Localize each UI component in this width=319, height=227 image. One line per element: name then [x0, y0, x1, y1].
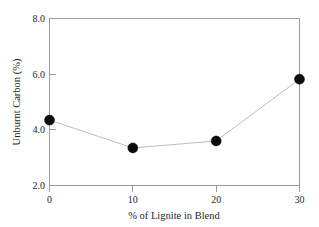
data-point	[211, 136, 221, 146]
x-tick-label-0: 0	[47, 194, 52, 205]
data-point	[295, 74, 305, 84]
y-axis-title: Unburnt Carbon (%)	[11, 58, 23, 145]
y-tick-label-6: 6.0	[33, 69, 46, 80]
y-tick-label-8: 8.0	[33, 13, 46, 24]
chart-figure: 8.0 6.0 4.0 2.0 0 10 20 30 % of Lignite …	[0, 0, 319, 227]
y-tick-labels: 8.0 6.0 4.0 2.0	[33, 13, 46, 191]
x-tick-label-10: 10	[128, 194, 138, 205]
x-tick-label-30: 30	[295, 194, 305, 205]
data-point	[128, 143, 138, 153]
x-axis-ticks	[50, 186, 300, 192]
x-axis-title: % of Lignite in Blend	[128, 210, 220, 221]
data-point	[45, 115, 55, 125]
x-tick-label-20: 20	[211, 194, 221, 205]
y-axis-ticks	[50, 19, 56, 186]
plot-frame	[50, 19, 300, 186]
line-chart: 8.0 6.0 4.0 2.0 0 10 20 30 % of Lignite …	[0, 0, 319, 227]
y-tick-label-4: 4.0	[33, 124, 46, 135]
series-line	[50, 79, 300, 148]
series-markers	[45, 74, 305, 153]
y-tick-label-2: 2.0	[33, 180, 46, 191]
x-tick-labels: 0 10 20 30	[47, 194, 305, 205]
